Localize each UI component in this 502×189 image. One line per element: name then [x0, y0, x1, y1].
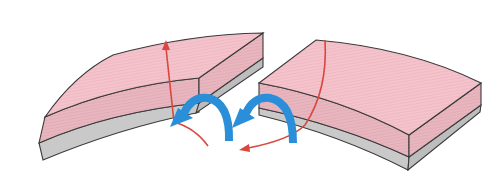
- right-slab: [259, 40, 481, 170]
- red-arrow-right-head: [239, 144, 250, 152]
- slab-diagram: [0, 0, 502, 189]
- diagram-canvas: [0, 0, 502, 189]
